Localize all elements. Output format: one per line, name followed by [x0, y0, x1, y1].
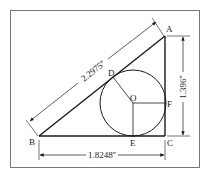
base-dimension: 1.8248'' — [39, 140, 165, 160]
triangle-abc — [39, 36, 165, 136]
point-label-o: O — [130, 93, 137, 103]
point-label-d: D — [108, 68, 115, 78]
point-label-c: C — [167, 138, 173, 148]
point-label-f: F — [167, 99, 172, 109]
hypotenuse-dimension: 2.2975'' — [26, 18, 164, 136]
point-label-e: E — [130, 138, 136, 148]
radii — [113, 77, 165, 136]
height-length-label: 1.396'' — [178, 75, 188, 99]
point-label-a: A — [166, 24, 173, 34]
hypotenuse-length-label: 2.2975'' — [79, 58, 107, 83]
diagram-canvas: 2.2975'' 1.396'' 1.8248'' A B C D E F O — [0, 0, 210, 175]
point-label-b: B — [29, 137, 35, 147]
base-length-label: 1.8248'' — [88, 150, 116, 160]
height-dimension: 1.396'' — [167, 36, 190, 136]
